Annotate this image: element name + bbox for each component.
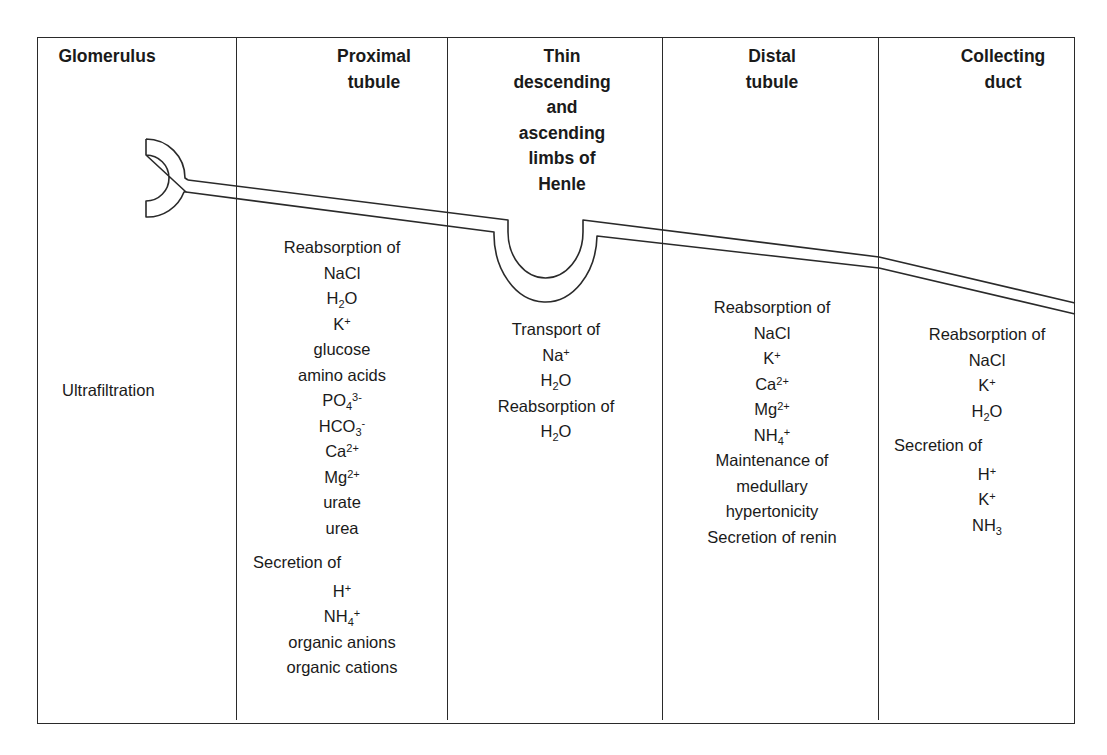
chem-superscript: + (354, 607, 360, 619)
chem-base: K (978, 490, 989, 508)
chem-base: Mg (324, 468, 347, 486)
chem-tail: O (345, 289, 358, 307)
chem-base: H (327, 289, 339, 307)
header-distal-tubule: Distal tubule (746, 44, 799, 95)
function-item: K+ (333, 312, 350, 338)
function-item: NaCl (754, 321, 791, 347)
function-item: Secretion of (894, 433, 982, 459)
function-item: PO43- (322, 388, 362, 414)
chem-superscript: + (989, 376, 995, 388)
chem-superscript: + (774, 349, 780, 361)
chem-base: Mg (754, 400, 777, 418)
header-collecting-duct: Collecting duct (961, 44, 1046, 95)
chem-superscript: 2+ (346, 442, 359, 454)
function-item: K+ (978, 487, 995, 513)
chem-superscript: 2+ (347, 468, 360, 480)
chem-superscript: + (784, 426, 790, 438)
chem-superscript: + (563, 346, 569, 358)
function-item: NH4+ (754, 423, 790, 449)
chem-base: NH (754, 426, 778, 444)
chem-base: H (541, 422, 553, 440)
function-item: amino acids (298, 363, 386, 389)
function-item: organic anions (288, 630, 395, 656)
function-item: medullary (736, 474, 808, 500)
function-item: H2O (327, 286, 358, 312)
chem-base: K (763, 349, 774, 367)
function-item: NH3 (972, 513, 1002, 539)
chem-superscript: + (990, 465, 996, 477)
function-item: urate (323, 490, 361, 516)
chem-base: Ca (755, 375, 776, 393)
chem-base: K (978, 376, 989, 394)
chem-base: Na (542, 346, 563, 364)
chem-superscript: 3- (352, 391, 362, 403)
chem-superscript: + (989, 490, 995, 502)
chem-superscript: + (345, 582, 351, 594)
chem-superscript: 2+ (776, 375, 789, 387)
header-proximal-tubule: Proximal tubule (337, 44, 411, 95)
function-item: Reabsorption of (284, 235, 401, 261)
function-item: Reabsorption of (498, 394, 615, 420)
chem-superscript: 2+ (777, 400, 790, 412)
function-item: Mg2+ (754, 397, 789, 423)
chem-base: H (333, 582, 345, 600)
function-item: H2O (972, 399, 1003, 425)
function-item: NH4+ (324, 604, 360, 630)
function-item: H+ (333, 579, 351, 605)
function-item: H+ (978, 462, 996, 488)
function-item: Ca2+ (325, 439, 359, 465)
chem-tail: O (559, 371, 572, 389)
chem-base: NH (972, 516, 996, 534)
chem-subscript: 3 (996, 525, 1002, 537)
header-glomerulus: Glomerulus (58, 44, 155, 70)
function-item: Reabsorption of (929, 322, 1046, 348)
function-item: glucose (314, 337, 371, 363)
function-item: K+ (763, 346, 780, 372)
header-loop-of-henle: Thin descending and ascending limbs of H… (513, 44, 610, 197)
chem-base: K (333, 315, 344, 333)
function-item: Mg2+ (324, 465, 359, 491)
chem-base: H (541, 371, 553, 389)
bowmans-capsule-shape (146, 139, 188, 217)
function-item: NaCl (969, 348, 1006, 374)
function-item: hypertonicity (726, 499, 819, 525)
function-item: H2O (541, 368, 572, 394)
function-item: Secretion of renin (707, 525, 836, 551)
chem-tail: O (559, 422, 572, 440)
chem-base: PO (322, 391, 346, 409)
chem-base: NH (324, 607, 348, 625)
function-item: Ca2+ (755, 372, 789, 398)
chem-base: Ca (325, 442, 346, 460)
chem-superscript: + (344, 315, 350, 327)
chem-base: HCO (319, 417, 356, 435)
chem-tail: O (990, 402, 1003, 420)
function-item: organic cations (287, 655, 398, 681)
function-item: H2O (541, 419, 572, 445)
function-item: Reabsorption of (714, 295, 831, 321)
function-item: Na+ (542, 343, 570, 369)
chem-superscript: - (362, 417, 366, 429)
function-item: K+ (978, 373, 995, 399)
function-item: Secretion of (253, 550, 341, 576)
chem-base: H (978, 465, 990, 483)
function-item: HCO3- (319, 414, 365, 440)
function-item: Ultrafiltration (62, 378, 155, 404)
function-item: urea (325, 516, 358, 542)
function-item: Maintenance of (716, 448, 829, 474)
function-item: NaCl (324, 261, 361, 287)
nephron-function-diagram: Glomerulus Proximal tubule Thin descendi… (0, 0, 1107, 755)
function-item: Transport of (512, 317, 600, 343)
chem-base: H (972, 402, 984, 420)
